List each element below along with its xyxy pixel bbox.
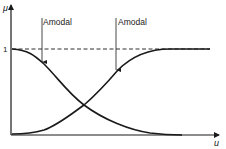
annotation-label-left: Amodal (43, 17, 72, 27)
y-tick-one: 1 (3, 45, 8, 54)
membership-function-diagram: μ u 1 Amodal Amodal (0, 0, 226, 149)
annotation-label-right: Amodal (118, 17, 147, 27)
x-axis-label: u (214, 138, 219, 148)
y-axis-label: μ (2, 3, 8, 13)
